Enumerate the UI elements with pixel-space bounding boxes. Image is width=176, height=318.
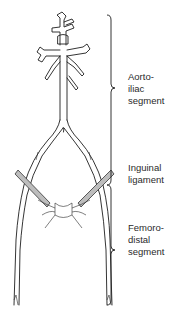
visceral-branches [37,12,90,80]
inguinal-ligament-label: Inguinal ligament [128,162,164,186]
iliac-and-femoral-arteries [14,120,112,305]
femorodistal-brace [107,185,115,305]
arterial-diagram [0,0,176,318]
femorodistal-segment-label: Femoro- distal segment [128,222,164,258]
aortoiliac-brace [107,15,115,185]
aorta [60,56,78,120]
segment-braces [107,15,115,305]
aortoiliac-segment-label: Aorto- iliac segment [128,71,164,107]
inguinal-ligaments [15,170,114,207]
pelvic-structure [38,200,90,228]
